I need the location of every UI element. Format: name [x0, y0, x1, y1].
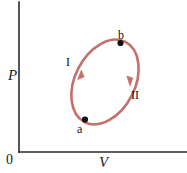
state-point-a-marker — [82, 116, 88, 122]
branch-ii-arrow-icon — [127, 76, 133, 86]
state-point-a-label: a — [77, 123, 82, 135]
cycle-ellipse-path — [58, 28, 152, 135]
pv-diagram-canvas — [0, 0, 187, 173]
v-axis-label: V — [99, 155, 108, 170]
thermodynamic-cycle-loop — [58, 28, 152, 135]
branch-i-arrow-icon — [78, 70, 85, 80]
branch-ii-label: II — [131, 89, 139, 101]
p-axis-label: P — [8, 68, 17, 83]
pv-diagram-figure: P V 0 a b I II — [0, 0, 187, 173]
origin-label: 0 — [6, 153, 13, 167]
branch-i-label: I — [66, 56, 70, 68]
state-point-b-label: b — [118, 29, 124, 41]
